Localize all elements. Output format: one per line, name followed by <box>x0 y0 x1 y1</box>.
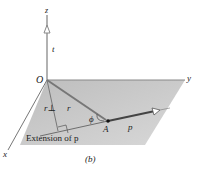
diagram: z t O y x r⊥ r ϕ A p Extension of p (b) <box>0 0 197 173</box>
unit-z-label: t <box>52 45 55 54</box>
z-arrow-icon <box>44 25 50 33</box>
point-a-label: A <box>103 125 109 134</box>
p-label: p <box>128 123 133 132</box>
r-perp-label: r⊥ <box>44 104 56 113</box>
x-label: x <box>3 150 7 159</box>
caption: (b) <box>85 155 96 164</box>
diagram-svg <box>0 0 197 173</box>
angle-label: ϕ <box>89 115 94 124</box>
point-a <box>106 119 110 123</box>
y-label: y <box>187 74 191 83</box>
extension-annotation: Extension of p <box>26 134 79 143</box>
r-label: r <box>67 104 71 113</box>
origin-label: O <box>36 75 43 85</box>
z-label: z <box>45 7 48 15</box>
